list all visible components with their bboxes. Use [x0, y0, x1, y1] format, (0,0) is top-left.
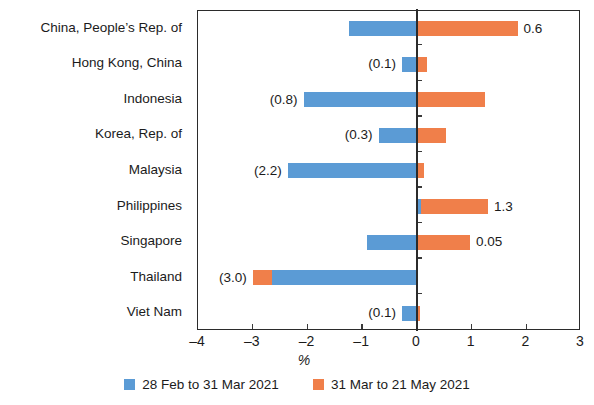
data-label: (2.2): [254, 164, 282, 178]
category-label: Korea, Rep. of: [0, 127, 182, 141]
legend-swatch-series-1: [124, 379, 135, 390]
x-tick-label: 2: [505, 334, 545, 348]
x-tick-label: –1: [341, 334, 381, 348]
bar-row: 0.6: [198, 11, 581, 47]
zero-axis-tick: [418, 222, 422, 223]
x-tick-label: 3: [560, 334, 594, 348]
data-label: 1.3: [494, 200, 513, 214]
bar-segment-period-2: [417, 92, 485, 107]
category-label: China, People’s Rep. of: [0, 21, 182, 35]
x-axis-tick: [361, 324, 362, 329]
legend-item-series-2: 31 Mar to 21 May 2021: [313, 378, 470, 392]
bar-segment-period-2: [417, 163, 424, 178]
legend-swatch-series-2: [313, 379, 324, 390]
legend-item-series-1: 28 Feb to 31 Mar 2021: [124, 378, 279, 392]
data-label: 0.6: [524, 22, 543, 36]
x-tick-label: –3: [232, 334, 272, 348]
zero-axis-tick: [418, 186, 422, 187]
category-label: Singapore: [0, 234, 182, 248]
x-axis-tick: [526, 324, 527, 329]
x-axis-tick-labels: –4–3–2–10123: [197, 334, 580, 354]
x-axis-title-text: %: [298, 352, 310, 368]
bar-segment-period-2: [417, 235, 470, 250]
data-label: (0.1): [368, 306, 396, 320]
bar-row: (0.1): [198, 295, 581, 331]
zero-axis-tick: [418, 44, 422, 45]
zero-axis-line: [416, 9, 418, 331]
zero-axis-tick: [418, 80, 422, 81]
bar-segment-period-1: [367, 235, 417, 250]
data-label: (0.3): [345, 128, 373, 142]
x-axis-tick: [471, 324, 472, 329]
bar-segment-period-2: [417, 128, 446, 143]
category-label: Malaysia: [0, 163, 182, 177]
bar-segment-period-2: [253, 270, 272, 285]
bar-row: (2.2): [198, 153, 581, 189]
x-tick-label: 0: [396, 334, 436, 348]
bar-row: 1.3: [198, 189, 581, 225]
data-label: (0.8): [270, 93, 298, 107]
zero-axis-tick: [418, 257, 422, 258]
zero-axis-tick: [418, 293, 422, 294]
bar-segment-period-1: [349, 21, 417, 36]
bar-segment-period-2: [421, 199, 488, 214]
bar-segment-period-2: [417, 57, 427, 72]
bar-segment-period-1: [288, 163, 417, 178]
x-axis-tick: [252, 324, 253, 329]
data-label: (3.0): [219, 271, 247, 285]
bar-segment-period-2: [417, 21, 518, 36]
bar-segment-period-1: [272, 270, 417, 285]
bar-row: (3.0): [198, 260, 581, 296]
x-tick-label: 1: [451, 334, 491, 348]
category-axis-labels: China, People’s Rep. ofHong Kong, ChinaI…: [0, 10, 190, 330]
chart-container: China, People’s Rep. ofHong Kong, ChinaI…: [0, 0, 594, 405]
data-label: (0.1): [368, 57, 396, 71]
chart-legend: 28 Feb to 31 Mar 2021 31 Mar to 21 May 2…: [0, 378, 594, 392]
category-label: Viet Nam: [0, 305, 182, 319]
x-axis-tick: [307, 324, 308, 329]
bar-row: (0.3): [198, 118, 581, 154]
category-label: Hong Kong, China: [0, 56, 182, 70]
bar-segment-period-1: [379, 128, 417, 143]
bar-segment-period-1: [402, 306, 417, 321]
bar-segment-period-1: [402, 57, 417, 72]
zero-axis-tick: [418, 151, 422, 152]
zero-axis-tick: [418, 115, 422, 116]
legend-label-series-2: 31 Mar to 21 May 2021: [331, 378, 470, 392]
category-label: Indonesia: [0, 92, 182, 106]
category-label: Philippines: [0, 199, 182, 213]
data-label: 0.05: [476, 235, 502, 249]
legend-label-series-1: 28 Feb to 31 Mar 2021: [142, 378, 279, 392]
category-label: Thailand: [0, 270, 182, 284]
x-tick-label: –2: [286, 334, 326, 348]
x-axis-title: %: [0, 352, 594, 368]
bar-row: (0.1): [198, 47, 581, 83]
bar-segment-period-1: [304, 92, 417, 107]
x-tick-label: –4: [177, 334, 217, 348]
bar-row: (0.8): [198, 82, 581, 118]
plot-area: 0.6(0.1)(0.8)(0.3)(2.2)1.30.05(3.0)(0.1): [197, 10, 580, 330]
bar-row: 0.05: [198, 224, 581, 260]
